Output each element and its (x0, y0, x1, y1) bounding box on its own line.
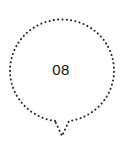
marker-graphic: 08 (0, 0, 122, 151)
marker-number-label: 08 (0, 61, 122, 79)
